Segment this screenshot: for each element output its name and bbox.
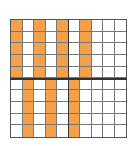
shaded-cell	[69, 114, 81, 126]
grid-cell	[103, 67, 115, 79]
grid-cell	[115, 90, 127, 102]
grid-cell	[11, 90, 23, 102]
grid-cell	[103, 90, 115, 102]
grid-cell	[103, 102, 115, 114]
shaded-cell	[23, 125, 35, 137]
shaded-cell	[23, 102, 35, 114]
grid-cell	[11, 78, 23, 90]
grid-cell	[46, 32, 58, 44]
shaded-cell	[46, 102, 58, 114]
shaded-cell	[34, 67, 46, 79]
shaded-cell	[34, 20, 46, 32]
grid-cell	[92, 20, 104, 32]
grid-cell	[92, 125, 104, 137]
grid-cell	[103, 114, 115, 126]
grid-cell	[34, 90, 46, 102]
grid-cell	[92, 78, 104, 90]
grid-cell	[46, 43, 58, 55]
grid-cell	[80, 90, 92, 102]
grid-cell	[92, 114, 104, 126]
shaded-cell	[46, 125, 58, 137]
shaded-cell	[80, 20, 92, 32]
shaded-cell	[11, 67, 23, 79]
grid-cell	[115, 125, 127, 137]
grid-cell	[11, 125, 23, 137]
grid-cell	[115, 102, 127, 114]
grid-cell	[23, 32, 35, 44]
shaded-cell	[23, 114, 35, 126]
grid-cell	[23, 55, 35, 67]
quadrant-divider-horizontal	[10, 78, 127, 80]
grid-cell	[92, 90, 104, 102]
shaded-cell	[80, 32, 92, 44]
grid-cell	[69, 67, 81, 79]
shaded-cell	[69, 102, 81, 114]
grid-cell	[69, 20, 81, 32]
shaded-cell	[69, 125, 81, 137]
grid-cell	[34, 102, 46, 114]
grid-cell	[23, 43, 35, 55]
grid-cell	[46, 55, 58, 67]
grid-cell	[69, 32, 81, 44]
grid-cell	[46, 20, 58, 32]
grid-cell	[80, 102, 92, 114]
shaded-cell	[46, 114, 58, 126]
grid-cell	[103, 125, 115, 137]
grid-cell	[34, 114, 46, 126]
grid-cell	[103, 32, 115, 44]
shaded-cell	[46, 78, 58, 90]
grid-cell	[92, 43, 104, 55]
grid-cell	[69, 43, 81, 55]
grid-cell	[69, 55, 81, 67]
shaded-cell	[80, 55, 92, 67]
shaded-cell	[80, 67, 92, 79]
grid-cell	[11, 114, 23, 126]
grid-cell	[80, 78, 92, 90]
grid-cell	[115, 20, 127, 32]
grid-cell	[34, 125, 46, 137]
grid-cell	[103, 78, 115, 90]
grid-cell	[46, 67, 58, 79]
shaded-cell	[11, 20, 23, 32]
grid-cell	[115, 32, 127, 44]
shaded-cell	[34, 32, 46, 44]
grid-cell	[34, 78, 46, 90]
grid-cell	[115, 55, 127, 67]
shaded-cell	[69, 90, 81, 102]
shaded-cell	[34, 43, 46, 55]
grid-cell	[92, 102, 104, 114]
grid-cell	[11, 102, 23, 114]
grid-cell	[80, 125, 92, 137]
shaded-cell	[69, 78, 81, 90]
grid-cell	[92, 55, 104, 67]
shaded-cell	[11, 43, 23, 55]
shaded-cell	[11, 55, 23, 67]
grid-cell	[92, 67, 104, 79]
grid-cell	[103, 20, 115, 32]
grid-cell	[115, 78, 127, 90]
grid-cell	[80, 114, 92, 126]
grid-cell	[115, 114, 127, 126]
grid-cell	[115, 67, 127, 79]
grid-cell	[115, 43, 127, 55]
shaded-cell	[11, 32, 23, 44]
grid-cell	[23, 67, 35, 79]
shaded-cell	[80, 43, 92, 55]
shaded-cell	[23, 78, 35, 90]
grid-cell	[103, 55, 115, 67]
shaded-cell	[46, 90, 58, 102]
grid-cell	[103, 43, 115, 55]
grid-cell	[23, 20, 35, 32]
shaded-cell	[23, 90, 35, 102]
grid-cell	[92, 32, 104, 44]
shaded-cell	[34, 55, 46, 67]
